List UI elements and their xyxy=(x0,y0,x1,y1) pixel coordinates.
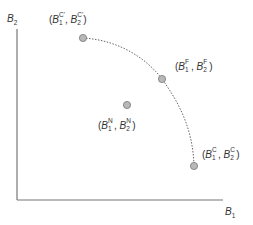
var: B xyxy=(224,149,231,160)
sup: C' xyxy=(77,12,83,19)
paren: ) xyxy=(132,120,135,131)
var: B xyxy=(197,61,204,72)
var: B xyxy=(71,14,78,25)
y-axis-label-base: B xyxy=(7,13,14,24)
y-axis-label: B2 xyxy=(7,14,17,27)
sub: 2 xyxy=(203,67,207,74)
y-axis-label-sub: 2 xyxy=(14,19,18,26)
var: B xyxy=(101,120,108,131)
script: C'2 xyxy=(77,15,83,25)
diagram-canvas xyxy=(0,0,253,225)
label-c: (BC1, BC2) xyxy=(202,150,240,160)
sup: C xyxy=(230,147,235,154)
point-c-prime xyxy=(79,34,86,41)
point-f xyxy=(158,75,165,82)
script: C'1 xyxy=(59,15,65,25)
script: N1 xyxy=(108,121,114,131)
var: B xyxy=(120,120,127,131)
paren: ) xyxy=(209,61,212,72)
var: B xyxy=(205,149,212,160)
var: B xyxy=(178,61,185,72)
sub: 1 xyxy=(59,20,63,27)
x-axis-label: B1 xyxy=(225,207,235,220)
sub: 1 xyxy=(108,126,112,133)
point-n xyxy=(123,101,130,108)
sup: F xyxy=(203,59,207,66)
sub: 2 xyxy=(126,126,130,133)
x-axis-label-sub: 1 xyxy=(232,212,236,219)
paren: ) xyxy=(236,149,239,160)
script: F1 xyxy=(185,62,191,72)
sub: 1 xyxy=(185,67,189,74)
sub: 2 xyxy=(77,20,81,27)
sub: 1 xyxy=(212,155,216,162)
script: C1 xyxy=(212,150,218,160)
var: B xyxy=(52,14,59,25)
sup: N xyxy=(108,118,113,125)
frontier-curve xyxy=(83,38,194,166)
sub: 2 xyxy=(230,155,234,162)
label-f: (BF1, BF2) xyxy=(175,62,213,72)
paren: ) xyxy=(83,14,86,25)
point-c xyxy=(190,162,197,169)
sup: N xyxy=(126,118,131,125)
sup: C xyxy=(212,147,217,154)
script: N2 xyxy=(126,121,132,131)
sup: C' xyxy=(59,12,65,19)
x-axis-label-base: B xyxy=(225,206,232,217)
sup: F xyxy=(185,59,189,66)
label-n: (BN1, BN2) xyxy=(98,121,136,131)
script: F2 xyxy=(203,62,209,72)
script: C2 xyxy=(230,150,236,160)
label-c-prime: (BC'1, BC'2) xyxy=(49,15,87,25)
